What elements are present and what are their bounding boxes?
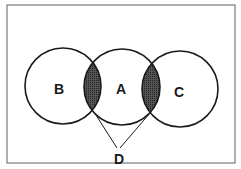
label-d: D [114, 151, 124, 167]
label-c: C [174, 84, 184, 100]
venn-diagram: B A C D [0, 0, 241, 169]
pointer-line-right [120, 113, 150, 148]
label-a: A [116, 81, 126, 97]
label-b: B [54, 81, 64, 97]
pointer-line-left [94, 112, 117, 148]
